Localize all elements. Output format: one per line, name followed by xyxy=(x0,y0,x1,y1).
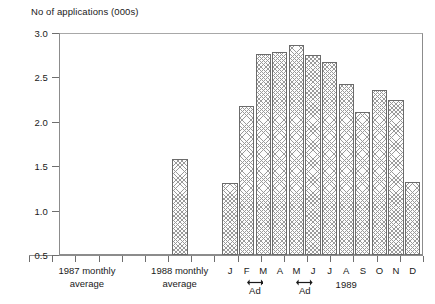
x-axis-tick xyxy=(261,256,262,262)
month-label-11: D xyxy=(409,265,416,276)
x-axis-tick xyxy=(75,256,76,262)
bar-month-F-1 xyxy=(239,106,254,255)
bar-month-A-7 xyxy=(339,84,354,255)
y-axis-tick-label: 1.0 xyxy=(20,205,48,216)
group-label-line1: 1987 monthly xyxy=(58,265,115,278)
month-label-5: J xyxy=(311,265,316,276)
x-axis-tick xyxy=(99,256,100,262)
group-label-line1: 1988 monthly xyxy=(151,265,208,278)
x-axis-tick xyxy=(238,256,239,262)
y-axis-tick xyxy=(52,33,59,34)
ad-label-second: Ad xyxy=(296,285,313,296)
group-label-line2: average xyxy=(151,278,208,291)
y-axis-tick-label: 2.5 xyxy=(20,72,48,83)
x-axis-tick xyxy=(145,256,146,262)
x-axis-tick xyxy=(214,256,215,262)
month-label-9: O xyxy=(376,265,383,276)
y-axis-tick xyxy=(52,166,59,167)
month-label-4: M xyxy=(292,265,300,276)
bar-month-O-9 xyxy=(372,90,387,255)
x-axis-tick xyxy=(191,256,192,262)
x-axis-tick xyxy=(400,256,401,262)
bar-month-S-8 xyxy=(355,112,370,255)
y-axis-line xyxy=(59,33,60,255)
group-label-line2: average xyxy=(58,278,115,291)
x-axis-tick xyxy=(122,256,123,262)
bar-month-D-11 xyxy=(405,182,420,255)
ad-label-first: Ad xyxy=(247,285,264,296)
y-axis-tick xyxy=(52,77,59,78)
bar-month-J-0 xyxy=(222,183,237,255)
month-label-2: M xyxy=(259,265,267,276)
year-label: 1989 xyxy=(336,279,357,290)
y-axis-tick xyxy=(52,255,59,256)
bar-month-N-10 xyxy=(388,100,403,255)
month-label-10: N xyxy=(393,265,400,276)
bar-month-J-6 xyxy=(322,62,337,255)
y-axis-tick-label: 3.0 xyxy=(20,28,48,39)
bar-chart: No of applications (000s) 3.02.52.01.51.… xyxy=(0,0,435,304)
y-axis-tick xyxy=(52,122,59,123)
x-axis-tick xyxy=(52,256,53,262)
x-axis-tick xyxy=(307,256,308,262)
y-axis-tick-label: 2.0 xyxy=(20,116,48,127)
bar-month-J-5 xyxy=(305,55,320,255)
group-label: 1987 monthlyaverage xyxy=(58,265,115,290)
y-axis-tick-label: 0.5 xyxy=(20,250,48,261)
month-label-8: S xyxy=(360,265,366,276)
month-label-1: F xyxy=(244,265,250,276)
x-axis-line xyxy=(29,255,423,256)
month-label-3: A xyxy=(277,265,283,276)
x-axis-tick xyxy=(353,256,354,262)
y-axis-title: No of applications (000s) xyxy=(31,6,139,17)
bar-1988-monthly-average xyxy=(172,159,188,255)
month-label-6: J xyxy=(327,265,332,276)
y-axis-tick-label: 1.5 xyxy=(20,161,48,172)
group-label: 1988 monthlyaverage xyxy=(151,265,208,290)
y-axis-tick xyxy=(52,211,59,212)
bar-month-M-4 xyxy=(289,45,304,255)
x-axis-tick xyxy=(29,256,30,262)
x-axis-tick xyxy=(423,256,424,262)
month-label-0: J xyxy=(228,265,233,276)
x-axis-tick xyxy=(377,256,378,262)
x-axis-tick xyxy=(330,256,331,262)
bar-month-A-3 xyxy=(272,52,287,255)
month-label-7: A xyxy=(343,265,349,276)
x-axis-tick xyxy=(168,256,169,262)
bar-month-M-2 xyxy=(256,54,271,255)
x-axis-tick xyxy=(284,256,285,262)
